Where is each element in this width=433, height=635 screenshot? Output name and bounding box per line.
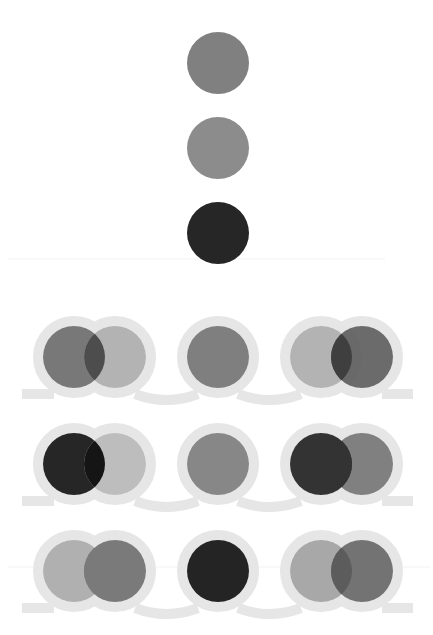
- mix-group-1: [43, 540, 146, 602]
- mixing-rows: [22, 321, 413, 614]
- mix-group-1: [43, 326, 146, 388]
- mixing-row-1: [22, 321, 413, 400]
- legend-circle-source-a: [187, 32, 249, 94]
- mix-result-circle: [187, 540, 249, 602]
- legend-circle-source-c: [187, 202, 249, 264]
- mix-group-2: [187, 326, 249, 388]
- mix-group-3: [290, 540, 393, 602]
- mixing-row-2: [22, 428, 413, 507]
- divider-lines: [8, 259, 430, 567]
- legend-circle-source-b: [187, 117, 249, 179]
- mix-group-2: [187, 433, 249, 495]
- mix-group-3: [290, 433, 393, 495]
- source-color-legend: [187, 32, 249, 264]
- mix-result-circle: [187, 326, 249, 388]
- mixing-row-3: [22, 535, 413, 614]
- mix-group-2: [187, 540, 249, 602]
- mix-result-circle: [187, 433, 249, 495]
- color-mixing-diagram: [0, 0, 433, 635]
- mix-group-3: [290, 326, 393, 388]
- mix-group-1: [43, 433, 146, 495]
